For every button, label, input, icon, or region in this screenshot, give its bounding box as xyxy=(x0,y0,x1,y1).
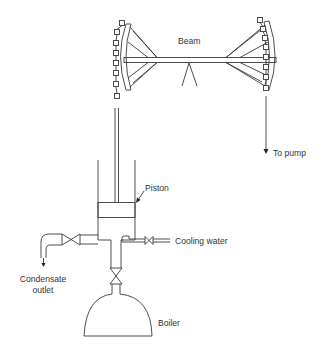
chain-link xyxy=(115,30,120,35)
chain-link xyxy=(264,75,269,80)
chain-link xyxy=(114,51,119,56)
piston-label: Piston xyxy=(145,183,169,193)
boiler-label: Boiler xyxy=(158,318,180,328)
chain-link xyxy=(263,36,268,41)
boiler xyxy=(84,294,152,336)
chain-connector xyxy=(116,35,117,41)
condensate-valve-icon[interactable] xyxy=(62,234,80,245)
chain-link xyxy=(115,94,120,99)
chain-link xyxy=(264,65,269,70)
chain-link xyxy=(264,55,269,60)
condensate-label-line1: Condensate xyxy=(20,274,67,284)
condensate-pipe xyxy=(41,234,98,267)
piston-rod xyxy=(115,108,119,203)
beam-bar xyxy=(124,58,276,63)
cooling-water-valve-icon[interactable] xyxy=(145,237,153,245)
to-pump-label: To pump xyxy=(273,148,306,158)
chain-link xyxy=(261,27,266,32)
chain-connector xyxy=(117,26,122,30)
right-chain xyxy=(258,18,269,91)
to-pump-arrow-icon xyxy=(264,149,269,154)
steam-pipe xyxy=(110,240,122,294)
pivot-stand xyxy=(182,63,197,86)
chain-link xyxy=(114,61,119,66)
chain-link xyxy=(114,41,119,46)
beam-label: Beam xyxy=(178,36,200,46)
left-arch-head xyxy=(121,24,158,90)
chain-link xyxy=(114,71,119,76)
piston-arrow-icon xyxy=(136,198,141,204)
chain-connector xyxy=(260,23,263,27)
steam-valve-icon[interactable] xyxy=(110,268,122,284)
cooling-water-label: Cooling water xyxy=(175,236,228,246)
chain-connector xyxy=(263,32,265,36)
piston xyxy=(98,203,135,218)
beam xyxy=(124,58,276,63)
left-chain xyxy=(114,21,125,99)
cylinder xyxy=(98,160,135,240)
chain-link xyxy=(264,86,269,91)
chain-link xyxy=(114,82,119,87)
condensate-arrow-icon xyxy=(42,263,46,267)
newcomen-engine-diagram: Beam To pump xyxy=(0,0,325,350)
condensate-label-line2: outlet xyxy=(32,285,54,295)
piston-leader xyxy=(138,191,144,200)
chain-link xyxy=(258,18,263,23)
chain-link xyxy=(120,21,125,26)
chain-connector xyxy=(116,87,117,94)
chain-link xyxy=(264,45,269,50)
